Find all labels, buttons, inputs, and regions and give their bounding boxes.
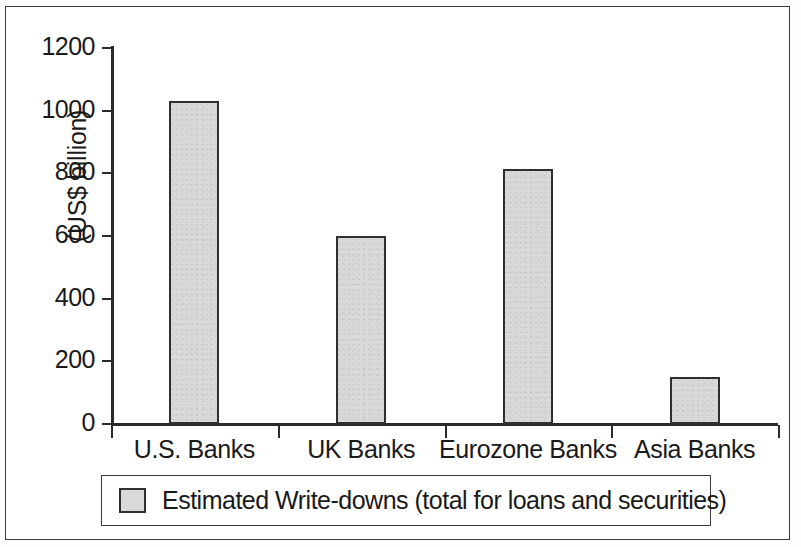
y-tick-mark xyxy=(102,47,113,49)
x-category-label: U.S. Banks xyxy=(101,435,288,464)
y-tick-label: 800 xyxy=(9,159,95,184)
y-tick-mark xyxy=(102,298,113,300)
bar xyxy=(670,377,720,424)
x-tick-mark xyxy=(278,425,280,438)
x-tick-mark xyxy=(111,425,113,438)
x-tick-mark xyxy=(611,425,613,438)
figure: (US$ billion) 020040060080010001200 U.S.… xyxy=(0,0,801,547)
y-tick-label: 200 xyxy=(9,347,95,372)
x-tick-mark xyxy=(445,425,447,438)
y-tick-label: 400 xyxy=(9,285,95,310)
y-tick-label: 600 xyxy=(9,222,95,247)
x-category-label: UK Banks xyxy=(268,435,455,464)
y-tick-label: 1000 xyxy=(9,97,95,122)
bar-chart: (US$ billion) 020040060080010001200 U.S.… xyxy=(1,1,801,547)
y-tick-mark xyxy=(102,235,113,237)
y-tick-mark xyxy=(102,360,113,362)
x-category-label: Asia Banks xyxy=(601,435,788,464)
bar xyxy=(503,169,553,424)
bar xyxy=(336,236,386,424)
figure-border: (US$ billion) 020040060080010001200 U.S.… xyxy=(5,6,790,540)
y-tick-mark xyxy=(102,110,113,112)
legend-label: Estimated Write-downs (total for loans a… xyxy=(162,486,726,515)
legend: Estimated Write-downs (total for loans a… xyxy=(101,475,711,526)
legend-swatch-icon xyxy=(119,488,146,513)
y-tick-mark xyxy=(102,172,113,174)
bar xyxy=(169,101,219,424)
x-tick-mark xyxy=(778,425,780,438)
x-category-label: Eurozone Banks xyxy=(435,435,622,464)
y-tick-label: 1200 xyxy=(9,34,95,59)
y-tick-label: 0 xyxy=(9,410,95,435)
